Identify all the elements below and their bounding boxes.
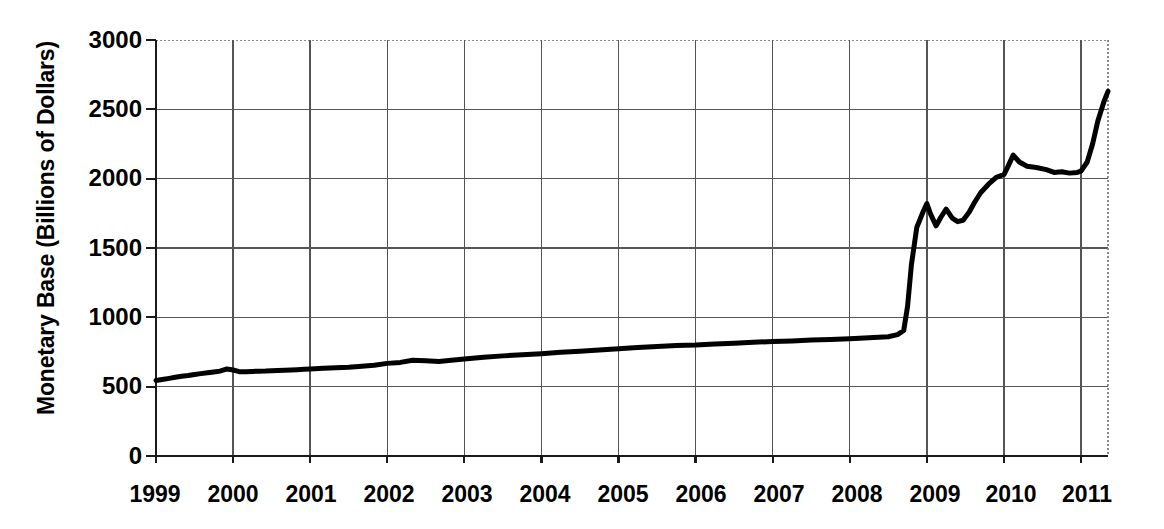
plot-area — [0, 0, 1164, 529]
chart-figure: Monetary Base (Billions of Dollars) 3000… — [0, 0, 1164, 529]
axis-tick-marks — [146, 40, 1081, 463]
data-series-lines — [156, 91, 1108, 380]
series-line — [156, 91, 1108, 380]
grid-lines — [156, 40, 1108, 456]
